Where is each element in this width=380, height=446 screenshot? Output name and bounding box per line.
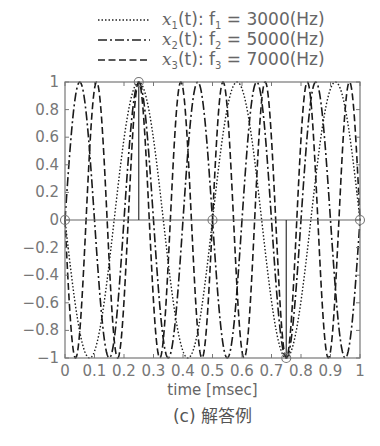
- x-tick-label: 1: [355, 362, 365, 380]
- x-tick-label: 0.2: [112, 362, 136, 380]
- y-tick-label: 1: [49, 73, 59, 91]
- x-tick-label: 0: [60, 362, 70, 380]
- x-tick-label: 0.1: [83, 362, 107, 380]
- x-tick-label: 0.3: [142, 362, 166, 380]
- x-axis-label: time [msec]: [0, 381, 380, 399]
- x-tick-label: 0.5: [201, 362, 225, 380]
- x-tick-label: 0.6: [230, 362, 254, 380]
- y-tick-label: −0.8: [23, 321, 59, 339]
- y-tick-label: −0.6: [23, 294, 59, 312]
- y-tick-label: −1: [37, 349, 59, 367]
- x-tick-label: 0.9: [319, 362, 343, 380]
- axes-layer: 00.10.20.30.40.50.60.70.80.9110.80.60.40…: [23, 73, 365, 380]
- y-tick-label: 0.8: [35, 101, 59, 119]
- y-tick-label: 0.4: [35, 156, 59, 174]
- plot-area: 00.10.20.30.40.50.60.70.80.9110.80.60.40…: [0, 0, 380, 446]
- y-tick-label: 0.2: [35, 183, 59, 201]
- y-tick-label: −0.2: [23, 239, 59, 257]
- figure-caption: (c) 解答例: [0, 402, 380, 427]
- y-tick-label: 0.6: [35, 128, 59, 146]
- x-tick-label: 0.8: [289, 362, 313, 380]
- y-tick-label: −0.4: [23, 266, 59, 284]
- x-tick-label: 0.4: [171, 362, 195, 380]
- x-tick-label: 0.7: [260, 362, 284, 380]
- y-tick-label: 0: [49, 211, 59, 229]
